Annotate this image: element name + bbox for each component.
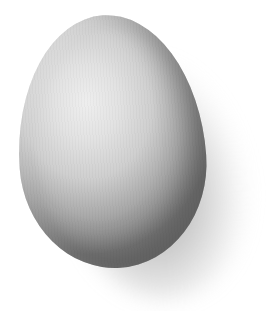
egg-scene (0, 0, 269, 308)
